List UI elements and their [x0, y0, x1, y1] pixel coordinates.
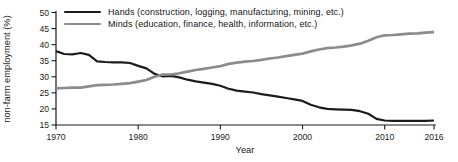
legend-item-hands: Hands (construction, logging, manufactur…: [64, 6, 344, 18]
legend-label-hands: Hands (construction, logging, manufactur…: [108, 7, 344, 17]
x-tick-label: 2010: [375, 132, 394, 142]
y-axis-title: non-farm employment (%): [2, 15, 12, 122]
x-tick-label: 2000: [293, 132, 312, 142]
chart-figure: non-farm employment (%) Year 15202530354…: [0, 0, 458, 162]
minds-line-swatch: [64, 23, 101, 26]
x-tick-label: 1980: [129, 132, 148, 142]
minds-line: [56, 32, 434, 88]
y-tick-label: 20: [39, 104, 49, 114]
x-tick-label: 1970: [46, 132, 65, 142]
y-tick-label: 25: [39, 88, 49, 98]
y-tick-label: 45: [39, 24, 49, 34]
x-tick-label: 2016: [424, 132, 443, 142]
y-tick-label: 40: [39, 40, 49, 50]
y-tick-label: 15: [39, 120, 49, 130]
legend-item-minds: Minds (education, finance, health, infor…: [64, 18, 344, 30]
chart-legend: Hands (construction, logging, manufactur…: [64, 6, 344, 30]
x-tick-label: 1990: [211, 132, 230, 142]
hands-line-swatch: [64, 11, 101, 13]
y-tick-label: 30: [39, 72, 49, 82]
y-tick-label: 35: [39, 56, 49, 66]
x-axis-title: Year: [236, 145, 255, 155]
legend-label-minds: Minds (education, finance, health, infor…: [108, 19, 317, 29]
y-tick-label: 50: [39, 8, 49, 18]
